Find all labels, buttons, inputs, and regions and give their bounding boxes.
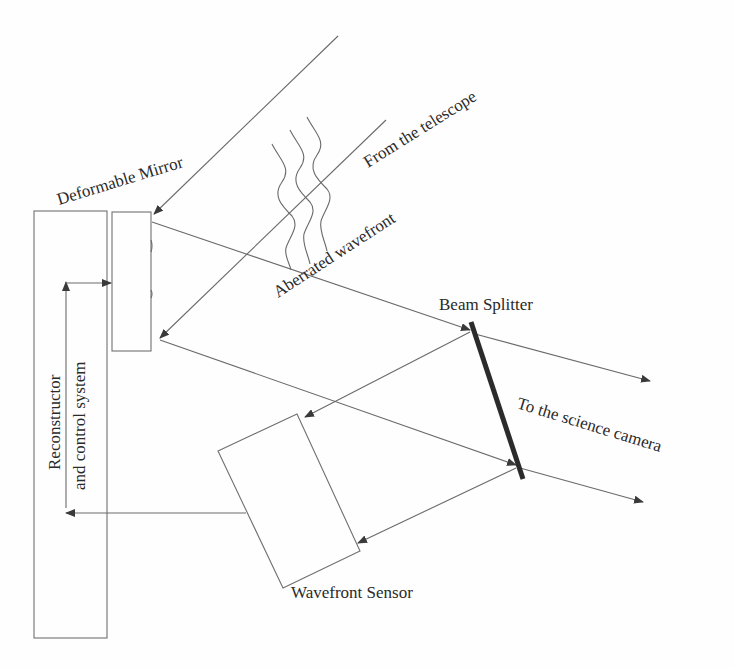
science-beam-upper (475, 334, 650, 381)
incoming-beam-upper (154, 36, 338, 214)
sensor-beam-lower (358, 468, 516, 543)
label-reconstructor: Reconstructor (45, 374, 64, 470)
deformable-mirror (112, 212, 152, 351)
label-to-science-camera: To the science camera (515, 394, 665, 456)
science-beam-lower (520, 468, 643, 502)
label-wavefront-sensor: Wavefront Sensor (291, 583, 413, 602)
incoming-beam-lower (160, 120, 386, 338)
label-from-telescope: From the telescope (360, 87, 480, 172)
label-control-system: and control system (70, 362, 89, 490)
aberrated-wavefront-waves (272, 117, 330, 270)
label-aberrated-wavefront: Aberrated wavefront (270, 208, 399, 301)
beam-splitter (471, 322, 523, 479)
wavefront-sensor-box (218, 414, 360, 588)
label-beam-splitter: Beam Splitter (439, 295, 533, 314)
label-deformable-mirror: Deformable Mirror (55, 152, 186, 208)
reflected-beam-lower (160, 340, 516, 465)
sensor-beam-upper (305, 332, 470, 417)
adaptive-optics-diagram: Deformable Mirror From the telescope Abe… (0, 0, 734, 668)
